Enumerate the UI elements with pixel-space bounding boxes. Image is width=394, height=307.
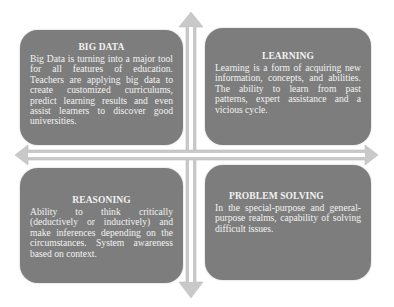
- quadrant-big-data: BIG DATA Big Data is turning into a majo…: [20, 30, 183, 145]
- quadrant-title: BIG DATA: [30, 41, 173, 53]
- quadrant-body: In the special-purpose and general-purpo…: [215, 203, 361, 234]
- quadrant-body: Big Data is turning into a major tool fo…: [30, 54, 173, 127]
- quadrant-title: PROBLEM SOLVING: [215, 190, 361, 202]
- quadrant-body: Learning is a form of acquiring new info…: [215, 63, 361, 115]
- horizontal-arrow-icon: [15, 145, 378, 165]
- quadrant-title: LEARNING: [215, 50, 361, 62]
- quadrant-learning: LEARNING Learning is a form of acquiring…: [205, 28, 371, 145]
- quadrant-title: REASONING: [30, 194, 173, 206]
- quadrant-reasoning: REASONING Ability to think critically (d…: [20, 168, 183, 283]
- quadrant-problem-solving: PROBLEM SOLVING In the special-purpose a…: [205, 165, 371, 280]
- quadrant-body: Ability to think critically (deductively…: [30, 207, 173, 259]
